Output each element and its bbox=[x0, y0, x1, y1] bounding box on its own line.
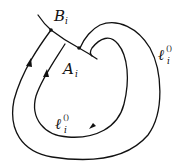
label-outer-loop-sub: i bbox=[167, 56, 170, 66]
label-a-main: A bbox=[61, 60, 74, 78]
point-a-dot bbox=[77, 46, 81, 50]
outer-loop-curve bbox=[13, 23, 160, 160]
loop-diagram: B i A i ℓ () i ℓ () i bbox=[0, 0, 189, 167]
label-outer-loop-sup: () bbox=[166, 44, 172, 53]
inner-bottom-arrow-icon bbox=[89, 123, 96, 129]
inner-loop-curve bbox=[35, 38, 128, 137]
label-inner-loop-sub: i bbox=[64, 125, 67, 135]
label-inner-loop-sup: () bbox=[63, 113, 69, 122]
outer-arrow-icon bbox=[26, 58, 32, 67]
label-a-sub: i bbox=[75, 69, 78, 79]
label-inner-loop-main: ℓ bbox=[55, 115, 61, 133]
label-outer-loop-main: ℓ bbox=[158, 46, 164, 64]
label-b-sub: i bbox=[65, 16, 68, 26]
label-b-main: B bbox=[53, 7, 65, 25]
point-b-dot bbox=[49, 28, 53, 32]
